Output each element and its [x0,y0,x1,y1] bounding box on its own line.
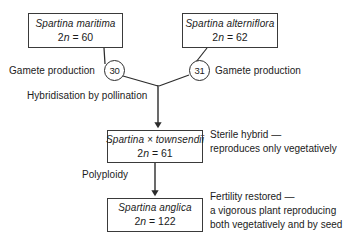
connector-node30-to-junction [123,76,158,86]
species-name-alterniflora: Spartina alterniflora [186,18,275,30]
label-gamete-production-left: Gamete production [9,65,95,76]
species-box-spartina-alterniflora: Spartina alterniflora 2n = 62 [182,13,278,48]
gamete-node-right: 31 [189,60,210,81]
connector-node31-to-junction [159,75,189,86]
connector-maritima-to-node30 [104,48,105,64]
annotation-sterile-hybrid-line1: Sterile hybrid — [210,128,337,142]
chromosome-value: = 60 [70,31,94,43]
annotation-fertility-restored-line1: Fertility restored — [210,190,342,204]
label-gamete-production-right: Gamete production [215,65,301,76]
chromosome-value: = 61 [149,147,173,159]
annotation-sterile-hybrid-line2: reproduces only vegetatively [210,142,337,156]
species-box-spartina-anglica: Spartina anglica 2n = 122 [107,198,203,232]
chromosome-count-maritima: 2n = 60 [58,31,93,44]
species-name-maritima: Spartina maritima [35,18,115,30]
gamete-node-right-value: 31 [194,65,204,76]
chromosome-value: = 122 [146,215,176,227]
label-polyploidy: Polyploidy [82,169,128,180]
chromosome-count-alterniflora: 2n = 62 [212,31,247,44]
chromosome-count-townsendii: 2n = 61 [137,147,172,160]
chromosome-value: = 62 [224,31,248,43]
label-hybridisation-by-pollination: Hybridisation by pollination [27,90,147,101]
annotation-sterile-hybrid: Sterile hybrid — reproduces only vegetat… [210,128,337,156]
species-box-spartina-maritima: Spartina maritima 2n = 60 [28,13,123,48]
annotation-fertility-restored-line3: both vegetatively and by seed [210,218,342,232]
annotation-fertility-restored-line2: a vigorous plant reproducing [210,204,342,218]
chromosome-count-anglica: 2n = 122 [134,215,175,228]
gamete-node-left-value: 30 [109,65,119,76]
annotation-fertility-restored: Fertility restored — a vigorous plant re… [210,190,342,233]
spartina-pathway-diagram: Spartina maritima 2n = 60 Spartina alter… [0,0,357,244]
species-box-spartina-townsendii: Spartina × townsendii 2n = 61 [107,130,203,163]
gamete-node-left: 30 [104,60,125,81]
species-name-anglica: Spartina anglica [118,202,191,214]
species-name-townsendii: Spartina × townsendii [106,134,204,146]
